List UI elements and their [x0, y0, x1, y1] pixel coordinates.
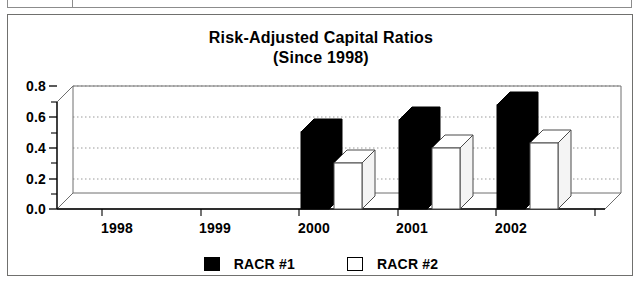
xtick-label-1999: 1999 [180, 220, 250, 236]
bar-side-face [460, 135, 473, 209]
y-axis [49, 86, 57, 209]
bar-front-face [301, 132, 329, 209]
ytick-label: 0.0 [2, 201, 46, 217]
bar-2000-racr2 [334, 150, 375, 209]
ytick-label: 0.8 [2, 78, 46, 94]
bar-2001-racr2 [432, 135, 473, 209]
bar-front-face [334, 163, 362, 209]
bar-front-face [432, 148, 460, 209]
table-cell-divider [72, 0, 73, 8]
legend-swatch-filled-square-icon [204, 257, 220, 271]
plot-left-wall [57, 86, 73, 209]
ytick-label: 0.4 [2, 140, 46, 156]
ytick-label: 0.2 [2, 171, 46, 187]
chart-container: Risk-Adjusted Capital Ratios (Since 1998… [7, 14, 633, 276]
xtick-label-2001: 2001 [377, 220, 447, 236]
bar-group-2001 [399, 107, 473, 209]
bar-2002-racr2 [530, 130, 571, 209]
legend-entry-racr1: RACR #1 [204, 256, 295, 272]
xtick-label-1998: 1998 [82, 220, 152, 236]
bar-group-2000 [301, 119, 375, 209]
legend-label: RACR #2 [377, 256, 438, 272]
legend-entry-racr2: RACR #2 [347, 256, 438, 272]
bar-side-face [558, 130, 571, 209]
plot-area [8, 15, 634, 277]
bar-front-face [497, 105, 525, 209]
document-table-fragment [0, 0, 642, 12]
bar-group-2002 [497, 92, 571, 209]
legend-label: RACR #1 [234, 256, 295, 272]
bar-front-face [399, 120, 427, 209]
bar-front-face [530, 143, 558, 209]
legend-swatch-hollow-square-icon [347, 257, 363, 271]
ytick-label: 0.6 [2, 109, 46, 125]
x-axis-ticks [102, 209, 595, 216]
xtick-label-2000: 2000 [279, 220, 349, 236]
chart-legend: RACR #1 RACR #2 [8, 253, 634, 275]
xtick-label-2002: 2002 [476, 220, 546, 236]
table-row [7, 0, 632, 8]
